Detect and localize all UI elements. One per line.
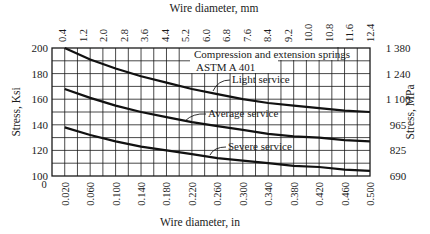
spring-stress-chart: Compression and extension springs ASTM A…	[0, 0, 430, 234]
svg-text:0: 0	[41, 179, 46, 190]
svg-text:4.4: 4.4	[160, 28, 171, 42]
svg-text:11.6: 11.6	[344, 24, 355, 42]
svg-text:825: 825	[390, 144, 407, 156]
y-axis-ksi-ticks: 100120140160180200	[32, 42, 49, 182]
svg-text:9.2: 9.2	[283, 29, 294, 42]
svg-text:0.060: 0.060	[85, 182, 96, 206]
x2-axis-title: Wire diameter, mm	[170, 2, 259, 15]
svg-text:12.4: 12.4	[365, 23, 376, 42]
svg-text:120: 120	[32, 144, 49, 156]
svg-text:180: 180	[32, 68, 49, 80]
svg-text:0.500: 0.500	[365, 182, 376, 206]
x-axis-title: Wire diameter, in	[160, 216, 240, 229]
legend-severe-service: Severe service	[228, 140, 292, 152]
svg-text:6.0: 6.0	[201, 29, 212, 42]
svg-text:0.300: 0.300	[238, 182, 249, 206]
annotation-line-2: ASTM A 401	[196, 61, 255, 73]
legend-average-service: Average service	[208, 107, 278, 119]
svg-text:0.100: 0.100	[111, 182, 122, 206]
svg-text:10.8: 10.8	[324, 24, 335, 42]
svg-text:5.2: 5.2	[180, 29, 191, 42]
x-axis-inch-ticks: 00.0200.0600.1000.1400.1800.2200.2600.30…	[41, 179, 376, 206]
svg-text:0.180: 0.180	[161, 182, 172, 206]
svg-text:0.340: 0.340	[263, 182, 274, 206]
svg-text:0.260: 0.260	[212, 182, 223, 206]
svg-text:6.8: 6.8	[221, 29, 232, 42]
svg-text:1 240: 1 240	[386, 68, 411, 80]
legend-light-service: Light service	[232, 73, 290, 85]
y-axis-title: Stress, Ksi	[10, 87, 23, 136]
svg-text:0.140: 0.140	[136, 182, 147, 206]
svg-text:7.6: 7.6	[242, 29, 253, 42]
svg-text:1 380: 1 380	[386, 42, 411, 54]
y2-axis-title: Stress, MPa	[404, 85, 417, 140]
svg-text:0.420: 0.420	[314, 182, 325, 206]
svg-text:3.6: 3.6	[139, 29, 150, 42]
svg-text:2.8: 2.8	[119, 29, 130, 42]
x-axis-mm-ticks: 0.41.22.02.83.64.45.26.06.87.68.49.210.0…	[57, 23, 376, 42]
svg-text:0.220: 0.220	[187, 182, 198, 206]
svg-text:160: 160	[32, 93, 49, 105]
svg-text:690: 690	[390, 170, 407, 182]
svg-text:0.4: 0.4	[57, 28, 68, 42]
svg-text:8.4: 8.4	[262, 28, 273, 42]
svg-text:1.2: 1.2	[78, 29, 89, 42]
svg-text:2.0: 2.0	[98, 29, 109, 42]
svg-text:140: 140	[32, 119, 49, 131]
svg-text:0.460: 0.460	[340, 182, 351, 206]
svg-text:0.380: 0.380	[289, 182, 300, 206]
svg-text:200: 200	[32, 42, 49, 54]
svg-text:10.0: 10.0	[303, 24, 314, 42]
annotation-line-1: Compression and extension springs	[194, 48, 350, 60]
svg-text:0.020: 0.020	[60, 182, 71, 206]
